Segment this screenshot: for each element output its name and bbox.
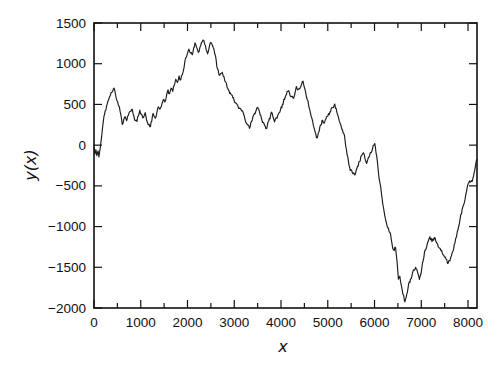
- y-axis-label: y(x): [21, 149, 40, 181]
- y-tick-label: −1500: [48, 260, 86, 275]
- x-tick-label: 5000: [313, 315, 343, 330]
- x-tick-label: 2000: [172, 315, 202, 330]
- x-tick-label: 6000: [359, 315, 389, 330]
- y-tick-label: −1000: [48, 219, 86, 234]
- plot-border: [94, 23, 477, 308]
- random-walk-chart: 010002000300040005000600070008000−2000−1…: [0, 0, 501, 369]
- y-tick-label: −2000: [48, 301, 86, 316]
- x-axis-label: x: [277, 337, 288, 356]
- x-tick-label: 0: [90, 315, 98, 330]
- chart-figure: 010002000300040005000600070008000−2000−1…: [0, 0, 501, 369]
- x-tick-label: 1000: [126, 315, 156, 330]
- y-tick-label: −500: [56, 178, 86, 193]
- y-tick-label: 500: [63, 97, 86, 112]
- y-tick-label: 0: [78, 138, 86, 153]
- x-tick-label: 4000: [266, 315, 296, 330]
- axis-ticks: [94, 23, 477, 308]
- x-tick-label: 3000: [219, 315, 249, 330]
- y-tick-label: 1000: [56, 56, 86, 71]
- y-tick-label: 1500: [56, 16, 86, 31]
- x-tick-label: 7000: [406, 315, 436, 330]
- axis-tick-labels: 010002000300040005000600070008000−2000−1…: [48, 16, 483, 331]
- x-tick-label: 8000: [453, 315, 483, 330]
- random-walk-line: [94, 40, 477, 302]
